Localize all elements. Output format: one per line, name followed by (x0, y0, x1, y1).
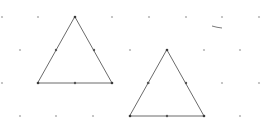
grid-dot (19, 115, 21, 117)
grid-dot (258, 82, 260, 84)
triangle-vertex (111, 82, 114, 85)
grid-dot (239, 49, 241, 51)
triangle-vertex (203, 115, 206, 118)
grid-dot (1, 82, 3, 84)
triangle-vertex (74, 16, 77, 19)
grid-dot (111, 16, 113, 18)
dot-grid-canvas (0, 0, 271, 137)
edge-midpoint (166, 115, 168, 117)
grid-dot (258, 16, 260, 18)
triangle-vertex (129, 115, 132, 118)
edge-midpoint (185, 82, 187, 84)
grid-dot (37, 16, 39, 18)
grid-dot (203, 49, 205, 51)
edge-midpoint (55, 49, 57, 51)
grid-dot (92, 115, 94, 117)
grid-dot (221, 16, 223, 18)
edge-midpoint (74, 82, 76, 84)
edge-midpoint (147, 82, 149, 84)
grid-dot (185, 16, 187, 18)
grid-dot (55, 115, 57, 117)
triangle-vertex (37, 82, 40, 85)
grid-dot (129, 49, 131, 51)
triangle-vertex (166, 49, 169, 52)
grid-dot (148, 16, 150, 18)
grid-dot (239, 115, 241, 117)
grid-dot (1, 16, 3, 18)
grid-dot (19, 49, 21, 51)
edge-midpoint (93, 49, 95, 51)
grid-dot (221, 82, 223, 84)
